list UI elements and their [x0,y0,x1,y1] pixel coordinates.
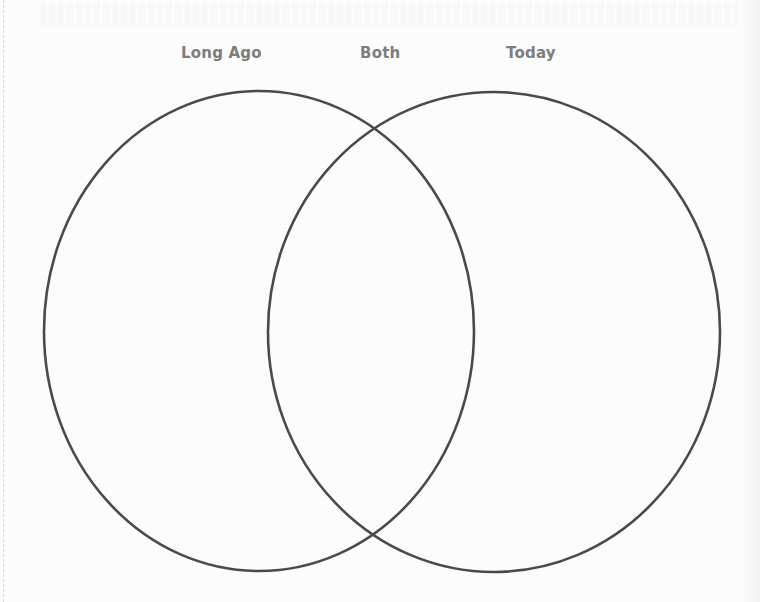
venn-circle-long-ago [44,91,474,571]
worksheet-page: Long Ago Both Today [0,0,760,602]
venn-diagram [0,0,760,602]
venn-circle-today [268,92,720,572]
